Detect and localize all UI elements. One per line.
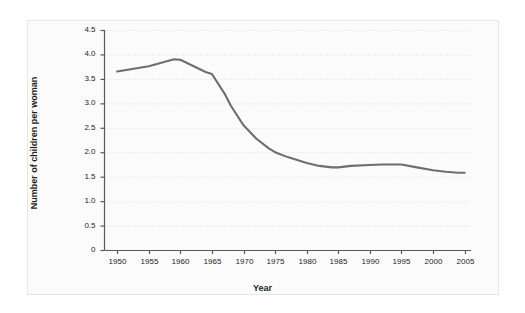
- figure-root: 4.54.03.53.02.52.01.51.00.50 19501955196…: [0, 0, 525, 313]
- y-axis-title: Number of children per woman: [29, 63, 39, 223]
- y-axis-tick-label: 3.5: [72, 75, 96, 83]
- x-axis-tick-label: 1980: [291, 258, 325, 266]
- x-axis-title: Year: [0, 283, 525, 293]
- gridlines: [105, 31, 472, 227]
- x-axis-tick-label: 1995: [385, 258, 419, 266]
- y-axis-tick-label: 0: [72, 246, 96, 254]
- y-axis-tick-label: 4.5: [72, 26, 96, 34]
- y-axis-tick-label: 1.5: [72, 173, 96, 181]
- y-axis-tick-label: 2.0: [72, 148, 96, 156]
- x-axis-tick-label: 1955: [133, 258, 167, 266]
- x-axis-tick-label: 1970: [228, 258, 262, 266]
- y-axis-tick-label: 0.5: [72, 222, 96, 230]
- data-series-line: [117, 59, 465, 172]
- x-axis-tick-label: 2000: [417, 258, 451, 266]
- y-axis-tick-label: 3.0: [72, 99, 96, 107]
- x-axis-tick-label: 1985: [322, 258, 356, 266]
- x-axis-tick-label: 1965: [196, 258, 230, 266]
- line-chart: [0, 0, 525, 313]
- x-axis-tick-label: 1960: [164, 258, 198, 266]
- y-axis-tick-label: 2.5: [72, 124, 96, 132]
- x-axis-tick-label: 1990: [354, 258, 388, 266]
- y-axis-tick-label: 4.0: [72, 50, 96, 58]
- x-axis-tick-label: 1975: [259, 258, 293, 266]
- x-axis-tick-label: 2005: [449, 258, 483, 266]
- x-axis-tick-label: 1950: [101, 258, 135, 266]
- y-axis-tick-label: 1.0: [72, 197, 96, 205]
